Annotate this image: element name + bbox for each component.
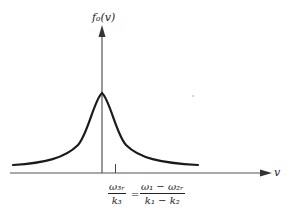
distribution-curve xyxy=(13,93,198,165)
y-axis-arrow-icon xyxy=(99,25,106,37)
rhs-denominator: k₁ − k₂ xyxy=(145,194,180,206)
lhs-denominator: k₃ xyxy=(112,194,122,206)
rhs-fraction: ω₁ − ω₂ᵣ k₁ − k₂ xyxy=(140,182,185,206)
rhs-numerator: ω₁ − ω₂ᵣ xyxy=(140,182,185,194)
speck xyxy=(192,95,194,97)
equals-sign: = xyxy=(131,189,139,200)
x-axis-label: v xyxy=(274,167,280,178)
y-axis-label: f₀(v) xyxy=(92,12,115,23)
lhs-fraction: ω₃ᵣ k₃ xyxy=(108,182,126,206)
x-axis-arrow-icon xyxy=(260,170,272,177)
lhs-numerator: ω₃ᵣ xyxy=(108,182,126,194)
